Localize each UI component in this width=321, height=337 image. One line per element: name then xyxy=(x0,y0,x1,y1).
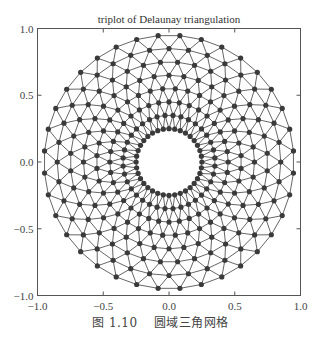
mesh-node xyxy=(172,192,177,197)
mesh-node xyxy=(150,131,155,136)
mesh-node xyxy=(141,138,146,143)
mesh-node xyxy=(269,232,274,237)
mesh-node xyxy=(111,258,116,263)
mesh-node xyxy=(111,180,116,185)
mesh-node xyxy=(196,78,201,83)
mesh-node xyxy=(187,103,192,108)
mesh-node xyxy=(178,205,183,210)
mesh-node xyxy=(108,170,113,175)
mesh-node xyxy=(86,102,91,107)
mesh-node xyxy=(134,192,139,197)
mesh-node xyxy=(183,188,188,193)
mesh-node xyxy=(77,117,82,122)
mesh-node xyxy=(71,133,76,138)
mesh-node xyxy=(154,114,159,119)
mesh-node xyxy=(134,159,139,164)
mesh-node xyxy=(247,130,252,135)
mesh-node xyxy=(256,202,261,207)
mesh-node xyxy=(141,181,146,186)
mesh-node xyxy=(209,84,214,89)
mesh-node xyxy=(166,46,171,51)
mesh-node xyxy=(208,99,213,104)
mesh-node xyxy=(124,84,129,89)
mesh-node xyxy=(208,179,213,184)
mesh-node xyxy=(226,202,231,207)
mesh-node xyxy=(134,126,139,131)
mesh-node xyxy=(160,86,165,91)
mesh-node xyxy=(218,129,223,134)
mesh-node xyxy=(221,226,226,231)
axes-frame xyxy=(38,29,301,296)
mesh-node xyxy=(271,198,276,203)
mesh-node xyxy=(114,274,119,279)
mesh-node xyxy=(178,114,183,119)
mesh-node xyxy=(95,72,100,77)
mesh-node xyxy=(156,286,161,291)
mesh-node xyxy=(128,205,133,210)
mesh-node xyxy=(162,113,167,118)
mesh-node xyxy=(68,151,73,156)
mesh-node xyxy=(223,241,228,246)
mesh-node xyxy=(265,151,270,156)
mesh-node xyxy=(46,127,51,132)
mesh-node xyxy=(192,256,197,261)
y-tick-label: 0.0 xyxy=(20,156,34,168)
mesh-node xyxy=(137,211,142,216)
mesh-node xyxy=(263,216,268,221)
mesh-node xyxy=(173,233,178,238)
mesh-node xyxy=(185,230,190,235)
mesh-node xyxy=(81,159,86,164)
mesh-node xyxy=(111,139,116,144)
mesh-node xyxy=(95,56,100,61)
mesh-node xyxy=(115,107,120,112)
mesh-node xyxy=(208,140,213,145)
mesh-node xyxy=(42,170,47,175)
mesh-node xyxy=(247,217,252,222)
triangulation-mesh xyxy=(42,33,296,291)
mesh-node xyxy=(199,282,204,287)
mesh-node xyxy=(94,153,99,158)
mesh-node xyxy=(111,226,116,231)
mesh-node xyxy=(205,266,210,271)
mesh-node xyxy=(68,168,73,173)
mesh-node xyxy=(199,126,204,131)
mesh-node xyxy=(97,89,102,94)
mesh-node xyxy=(166,99,171,104)
mesh-node xyxy=(134,282,139,287)
mesh-node xyxy=(238,153,243,158)
mesh-node xyxy=(136,148,141,153)
mesh-node xyxy=(56,179,61,184)
mesh-node xyxy=(86,130,91,135)
caption-number: 图 1.10 xyxy=(92,316,138,330)
mesh-node xyxy=(218,189,223,194)
mesh-node xyxy=(101,215,106,220)
mesh-node xyxy=(183,131,188,136)
mesh-node xyxy=(197,148,202,153)
mesh-node xyxy=(55,159,60,164)
mesh-node xyxy=(134,165,139,170)
mesh-node xyxy=(166,219,171,224)
mesh-node xyxy=(199,192,204,197)
mesh-node xyxy=(158,60,163,65)
mesh-node xyxy=(147,271,152,276)
mesh-node xyxy=(238,246,243,251)
mesh-node xyxy=(192,63,197,68)
mesh-node xyxy=(46,192,51,197)
mesh-node xyxy=(53,213,58,218)
y-tick-label: −0.5 xyxy=(14,223,34,235)
mesh-node xyxy=(175,259,180,264)
mesh-node xyxy=(255,249,260,254)
mesh-node xyxy=(95,263,100,268)
y-tick-label: 0.5 xyxy=(20,89,34,101)
mesh-node xyxy=(77,202,82,207)
mesh-node xyxy=(232,190,237,195)
mesh-node xyxy=(145,185,150,190)
mesh-node xyxy=(129,186,134,191)
mesh-node xyxy=(122,171,127,176)
mesh-node xyxy=(124,235,129,240)
mesh-node xyxy=(280,106,285,111)
mesh-node xyxy=(166,126,171,131)
mesh-node xyxy=(177,286,182,291)
x-tick-label: −0.5 xyxy=(93,300,113,311)
mesh-node xyxy=(212,198,217,203)
